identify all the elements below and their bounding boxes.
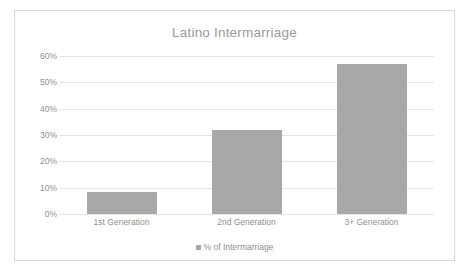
chart-legend: % of Intermarriage — [15, 242, 454, 252]
bar[interactable] — [337, 64, 407, 214]
chart-container: Latino Intermarriage 0%10%20%30%40%50%60… — [14, 10, 455, 261]
y-tick-label: 20% — [25, 156, 57, 166]
y-axis: 0%10%20%30%40%50%60% — [25, 56, 57, 214]
x-tick-label: 3+ Generation — [309, 217, 434, 227]
bar[interactable] — [212, 130, 282, 214]
y-tick-label: 30% — [25, 130, 57, 140]
y-tick-label: 40% — [25, 104, 57, 114]
bar-slot — [59, 56, 184, 214]
plot-area — [59, 56, 434, 214]
chart-title: Latino Intermarriage — [15, 25, 454, 40]
bar-slot — [309, 56, 434, 214]
gridline — [59, 214, 434, 215]
x-axis: 1st Generation2nd Generation3+ Generatio… — [59, 217, 434, 231]
y-tick-label: 60% — [25, 51, 57, 61]
legend-swatch-icon — [196, 245, 201, 250]
bar[interactable] — [87, 192, 157, 214]
y-tick-label: 0% — [25, 209, 57, 219]
bar-series — [59, 56, 434, 214]
legend-label: % of Intermarriage — [204, 242, 274, 252]
x-tick-label: 2nd Generation — [184, 217, 309, 227]
y-tick-label: 50% — [25, 77, 57, 87]
y-tick-label: 10% — [25, 183, 57, 193]
x-tick-label: 1st Generation — [59, 217, 184, 227]
bar-slot — [184, 56, 309, 214]
